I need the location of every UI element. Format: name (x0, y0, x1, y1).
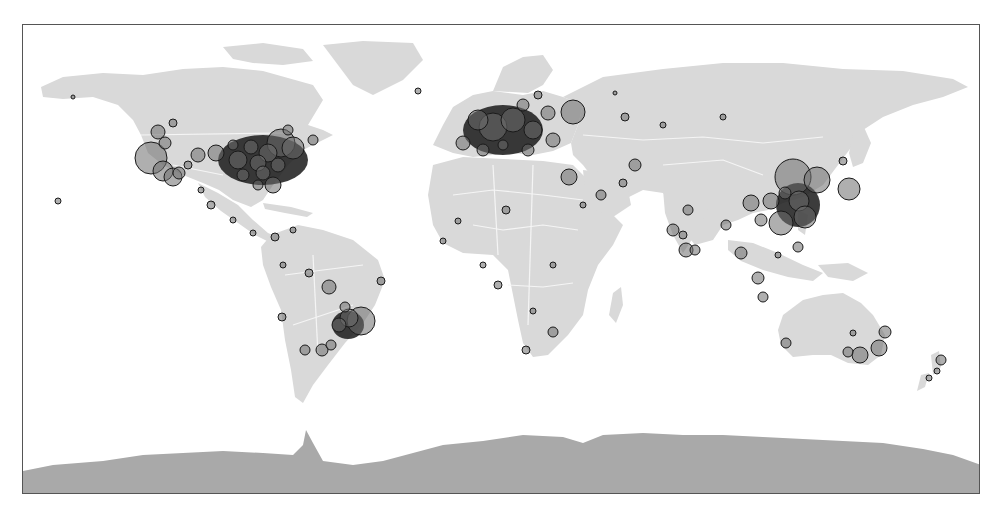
city-bubble[interactable] (265, 177, 281, 193)
city-bubble[interactable] (271, 158, 285, 172)
city-bubble[interactable] (253, 180, 263, 190)
landmass-new-guinea (818, 263, 868, 281)
world-map[interactable] (22, 24, 980, 494)
city-bubble[interactable] (580, 202, 586, 208)
city-bubble[interactable] (305, 269, 313, 277)
city-bubble[interactable] (793, 242, 803, 252)
landmass-cuba-caribbean (263, 203, 313, 217)
city-bubble[interactable] (720, 114, 726, 120)
city-bubble[interactable] (468, 110, 488, 130)
city-bubble[interactable] (169, 119, 177, 127)
city-bubble[interactable] (621, 113, 629, 121)
city-bubble[interactable] (207, 201, 215, 209)
city-bubble[interactable] (517, 99, 529, 111)
city-bubble[interactable] (752, 272, 764, 284)
city-bubble[interactable] (546, 133, 560, 147)
city-bubble[interactable] (326, 340, 336, 350)
city-bubble[interactable] (596, 190, 606, 200)
city-bubble[interactable] (455, 218, 461, 224)
city-bubble[interactable] (502, 206, 510, 214)
city-bubble[interactable] (456, 136, 470, 150)
city-bubble[interactable] (308, 135, 318, 145)
city-bubble[interactable] (228, 140, 238, 150)
city-bubble[interactable] (280, 262, 286, 268)
city-bubble[interactable] (415, 88, 421, 94)
city-bubble[interactable] (290, 227, 296, 233)
city-bubble[interactable] (839, 157, 847, 165)
city-bubble[interactable] (159, 137, 171, 149)
city-bubble[interactable] (550, 262, 556, 268)
landmass-scandinavia (493, 55, 553, 93)
city-bubble[interactable] (775, 252, 781, 258)
city-bubble[interactable] (561, 169, 577, 185)
city-bubble[interactable] (244, 140, 258, 154)
city-bubble[interactable] (184, 161, 192, 169)
city-bubble[interactable] (619, 179, 627, 187)
city-bubble[interactable] (283, 125, 293, 135)
city-bubble[interactable] (679, 231, 687, 239)
landmass-madagascar (609, 287, 623, 323)
city-bubble[interactable] (480, 262, 486, 268)
city-bubble[interactable] (629, 159, 641, 171)
city-bubble[interactable] (282, 137, 304, 159)
city-bubble[interactable] (71, 95, 75, 99)
city-bubble[interactable] (667, 224, 679, 236)
city-bubble[interactable] (498, 140, 508, 150)
city-bubble[interactable] (332, 318, 346, 332)
city-bubble[interactable] (501, 108, 525, 132)
city-bubble[interactable] (613, 91, 617, 95)
city-bubble[interactable] (934, 368, 940, 374)
city-bubble[interactable] (936, 355, 946, 365)
city-bubble[interactable] (683, 205, 693, 215)
city-bubble[interactable] (850, 330, 856, 336)
city-bubble[interactable] (690, 245, 700, 255)
city-bubble[interactable] (229, 151, 247, 169)
city-bubble[interactable] (804, 167, 830, 193)
city-bubble[interactable] (871, 340, 887, 356)
city-bubble[interactable] (530, 308, 536, 314)
city-bubble[interactable] (843, 347, 853, 357)
city-bubble[interactable] (561, 100, 585, 124)
city-bubble[interactable] (494, 281, 502, 289)
city-bubble[interactable] (230, 217, 236, 223)
city-bubble[interactable] (781, 338, 791, 348)
city-bubble[interactable] (477, 144, 489, 156)
city-bubble[interactable] (198, 187, 204, 193)
city-bubble[interactable] (191, 148, 205, 162)
city-bubble[interactable] (278, 313, 286, 321)
city-bubble[interactable] (660, 122, 666, 128)
city-bubble[interactable] (250, 230, 256, 236)
city-bubble[interactable] (173, 167, 185, 179)
city-bubble[interactable] (534, 91, 542, 99)
city-bubble[interactable] (763, 193, 779, 209)
city-bubble[interactable] (926, 375, 932, 381)
city-bubble[interactable] (735, 247, 747, 259)
city-bubble[interactable] (548, 327, 558, 337)
city-bubble[interactable] (237, 169, 249, 181)
city-bubble[interactable] (522, 346, 530, 354)
landmass-greenland (323, 41, 423, 95)
city-bubble[interactable] (256, 166, 270, 180)
city-bubble[interactable] (794, 206, 816, 228)
city-bubble[interactable] (440, 238, 446, 244)
city-bubble[interactable] (838, 178, 860, 200)
city-bubble[interactable] (55, 198, 61, 204)
city-bubble[interactable] (879, 326, 891, 338)
city-bubble[interactable] (769, 211, 793, 235)
city-bubble[interactable] (721, 220, 731, 230)
city-bubble[interactable] (779, 187, 791, 199)
map-canvas (23, 25, 980, 494)
city-bubble[interactable] (524, 121, 542, 139)
city-bubble[interactable] (300, 345, 310, 355)
city-bubble[interactable] (208, 145, 224, 161)
city-bubble[interactable] (322, 280, 336, 294)
city-bubble[interactable] (758, 292, 768, 302)
city-bubble[interactable] (271, 233, 279, 241)
city-bubble[interactable] (377, 277, 385, 285)
city-bubble[interactable] (541, 106, 555, 120)
city-bubble[interactable] (340, 302, 350, 312)
city-bubble[interactable] (743, 195, 759, 211)
city-bubble[interactable] (852, 347, 868, 363)
city-bubble[interactable] (522, 144, 534, 156)
city-bubble[interactable] (755, 214, 767, 226)
